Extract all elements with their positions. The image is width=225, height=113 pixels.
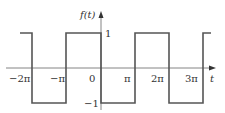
x-tick-3pi: 3π xyxy=(185,73,198,84)
x-tick-pi: π xyxy=(124,73,131,84)
x-tick-mpi: −π xyxy=(50,73,65,84)
square-wave-chart: f(t) 1 −1 −2π −π 0 π 2π 3π t xyxy=(0,0,225,113)
x-axis-arrow-icon xyxy=(209,66,216,71)
y-tick-1: 1 xyxy=(105,28,111,39)
y-axis-label: f(t) xyxy=(79,9,96,20)
x-axis-label: t xyxy=(210,73,215,84)
x-tick-m2pi: −2π xyxy=(9,73,31,84)
y-axis-arrow-icon xyxy=(99,11,104,18)
x-tick-2pi: 2π xyxy=(151,73,164,84)
x-tick-0: 0 xyxy=(89,73,95,84)
y-tick-neg1: −1 xyxy=(84,98,99,109)
